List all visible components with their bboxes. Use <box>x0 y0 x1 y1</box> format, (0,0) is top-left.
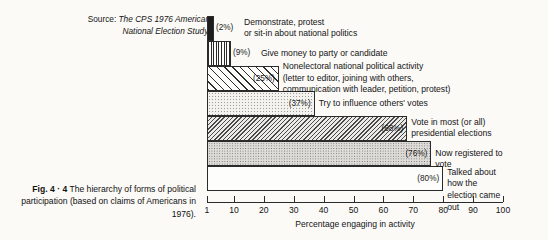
bar <box>207 16 214 41</box>
x-axis-tick-label: 50 <box>349 205 359 215</box>
x-axis-tick <box>503 196 504 202</box>
x-axis-title: Percentage engaging in activity <box>207 219 503 229</box>
x-axis-tick-label: 90 <box>468 205 478 215</box>
bar-value-label: (37%) <box>289 99 314 108</box>
x-axis-tick-label: 1 <box>205 205 210 215</box>
x-axis-tick <box>383 196 384 202</box>
bar-value-label: (25%) <box>253 74 278 83</box>
bar-value-label: (80%) <box>417 174 442 183</box>
x-axis-tick <box>413 196 414 202</box>
bar-value-label: (2%) <box>216 23 233 32</box>
x-axis-tick <box>264 196 265 202</box>
chart-plot-area: (2%)(9%)(25%)(37%)(68%)(76%)(80%) Demons… <box>207 16 503 202</box>
x-axis-tick-label: 60 <box>379 205 389 215</box>
x-axis-line <box>207 202 503 203</box>
figure-number: Fig. 4 · 4 <box>32 184 67 194</box>
source-note: Source: The CPS 1976 American National E… <box>68 14 210 37</box>
x-axis-tick <box>473 196 474 202</box>
source-label: Source: <box>88 14 117 24</box>
x-axis-tick <box>354 196 355 202</box>
x-axis-tick <box>234 196 235 202</box>
x-axis-tick-label: 70 <box>409 205 419 215</box>
x-axis-tick <box>443 196 444 202</box>
figure-root: Source: The CPS 1976 American National E… <box>0 0 548 240</box>
bar: (76%) <box>207 141 431 166</box>
x-axis-tick <box>207 196 208 202</box>
figure-caption: Fig. 4 · 4 The hierarchy of forms of pol… <box>16 183 196 220</box>
bar: (25%) <box>207 66 279 91</box>
bar-category-label: Try to influence others' votes <box>319 98 428 110</box>
x-axis-tick-label: 10 <box>229 205 239 215</box>
x-axis-tick-label: 20 <box>259 205 269 215</box>
x-axis-tick-label: 100 <box>496 205 510 215</box>
x-axis-tick <box>324 196 325 202</box>
bar-category-label: Vote in most (or all) presidential elect… <box>411 117 491 140</box>
x-axis-tick <box>294 196 295 202</box>
bar-value-label: (68%) <box>381 124 406 133</box>
x-axis-tick-label: 80 <box>438 205 448 215</box>
source-text: The CPS 1976 American National Election … <box>119 14 210 36</box>
bar-value-label: (76%) <box>405 149 430 158</box>
bar-category-label: Give money to party or candidate <box>261 48 388 60</box>
bar-category-label: Demonstrate, protest or sit-in about nat… <box>244 17 357 40</box>
bar <box>207 41 231 66</box>
bar: (80%) <box>207 166 443 191</box>
bar-value-label: (9%) <box>233 48 250 57</box>
bar-category-label: Nonelectoral national political activity… <box>283 61 451 96</box>
bar: (68%) <box>207 116 407 141</box>
x-axis-tick-label: 40 <box>319 205 329 215</box>
x-axis-tick-label: 30 <box>289 205 299 215</box>
